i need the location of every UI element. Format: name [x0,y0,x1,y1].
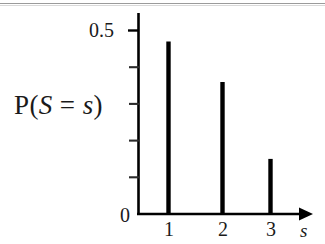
probability-chart-figure: P(S = s) 0.5 0 1 2 3 s [0,0,325,244]
y-tick-label-0: 0 [120,205,130,225]
x-tick-label-3: 3 [261,219,281,239]
y-axis-label-close-paren: ) [94,90,103,120]
x-tick-label-2: 2 [213,219,233,239]
y-axis-label: P(S = s) [14,92,103,119]
chart-plot-area [0,0,325,244]
y-axis-label-p: P( [14,90,39,120]
y-axis-label-variable-lower: s [83,90,94,120]
x-axis-arrow-icon [299,208,313,221]
x-axis-label: s [300,221,307,240]
x-tick-label-1: 1 [159,219,179,239]
y-axis-label-variable-upper: S [39,90,53,120]
y-tick-label-0_5: 0.5 [89,20,114,40]
y-axis-label-equals: = [53,90,83,120]
